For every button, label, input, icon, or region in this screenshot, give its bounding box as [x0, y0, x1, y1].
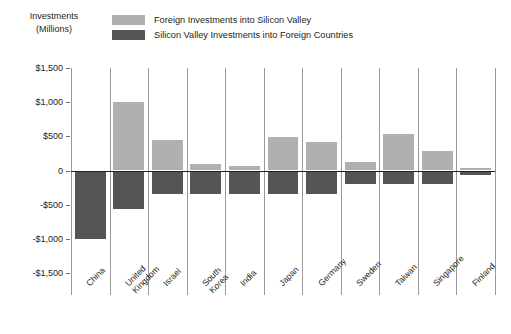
x-axis-category-label: Singapore [431, 253, 466, 288]
bar-negative [113, 171, 144, 210]
bar-positive [422, 151, 453, 171]
y-axis-tick-mark [66, 171, 70, 172]
investments-bar-chart: Investments (Millions) Foreign Investmen… [0, 0, 511, 334]
y-axis-title: Investments (Millions) [14, 10, 94, 36]
bar-negative [229, 171, 260, 195]
y-axis-tick-label: $1,000 [5, 97, 63, 107]
bar-positive [306, 142, 337, 171]
x-axis-category-label: Finland [470, 261, 497, 288]
x-axis-category-label: Germany [316, 256, 348, 288]
plot-area: $1,500$1,000$5000-$500-$1,000-$1,500Chin… [71, 68, 495, 273]
grid-line [264, 68, 265, 295]
bar-positive [268, 137, 299, 170]
grid-line [302, 68, 303, 295]
bar-positive [190, 164, 221, 171]
bar-negative [422, 171, 453, 185]
y-axis-title-line1: Investments [14, 10, 94, 23]
bar-negative [383, 171, 414, 185]
zero-baseline [71, 171, 495, 172]
y-axis-tick-mark [66, 273, 70, 274]
bar-positive [152, 140, 183, 170]
bar-positive [383, 134, 414, 170]
x-axis-category-label: Taiwan [393, 262, 419, 288]
x-axis-category-label: China [84, 265, 107, 288]
y-axis-tick-mark [66, 102, 70, 103]
bar-negative [345, 171, 376, 185]
bar-positive [345, 162, 376, 170]
y-axis-tick-label: -$1,000 [5, 234, 63, 244]
y-axis-tick-mark [66, 239, 70, 240]
bar-negative [190, 171, 221, 195]
x-axis-category-label: Japan [277, 264, 301, 288]
grid-line [71, 68, 72, 295]
bar-positive [113, 102, 144, 170]
grid-line [379, 68, 380, 295]
legend-swatch-foreign-into-sv [112, 15, 145, 25]
grid-line [225, 68, 226, 295]
grid-line [110, 68, 111, 295]
y-axis-title-line2: (Millions) [14, 23, 94, 36]
grid-line [187, 68, 188, 295]
y-axis-tick-label: -$1,500 [5, 268, 63, 278]
legend-swatch-sv-into-foreign [112, 30, 145, 40]
bar-negative [268, 171, 299, 195]
y-axis-tick-label: -$500 [5, 200, 63, 210]
legend-item-foreign-into-sv: Foreign Investments into Silicon Valley [112, 12, 353, 27]
y-axis-tick-label: $1,500 [5, 63, 63, 73]
y-axis-tick-mark [66, 68, 70, 69]
y-axis-tick-mark [66, 205, 70, 206]
y-axis-tick-mark [66, 136, 70, 137]
x-axis-category-label: Israel [161, 266, 183, 288]
bar-negative [306, 171, 337, 195]
legend-item-sv-into-foreign: Silicon Valley Investments into Foreign … [112, 27, 353, 42]
grid-line [495, 68, 496, 295]
bar-negative [75, 171, 106, 239]
bar-negative [152, 171, 183, 195]
grid-line [418, 68, 419, 295]
legend-label-foreign-into-sv: Foreign Investments into Silicon Valley [154, 15, 311, 25]
legend-label-sv-into-foreign: Silicon Valley Investments into Foreign … [154, 30, 353, 40]
y-axis-tick-label: $500 [5, 131, 63, 141]
y-axis-tick-label: 0 [5, 166, 63, 176]
x-axis-category-label: UnitedKingdom [123, 257, 161, 295]
x-axis-category-label: India [238, 268, 258, 288]
chart-legend: Foreign Investments into Silicon Valley … [112, 12, 353, 42]
